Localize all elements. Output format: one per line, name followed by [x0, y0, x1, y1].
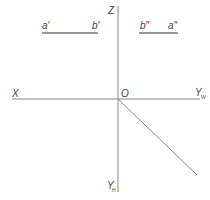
label-b-double-prime: b″ — [140, 20, 150, 31]
label-x-axis: X — [11, 88, 19, 99]
label-a-double-prime: a″ — [168, 20, 178, 31]
label-yh-sub: H — [112, 187, 116, 193]
label-z-axis: Z — [107, 5, 115, 16]
label-b-prime: b′ — [92, 20, 101, 31]
label-a-prime: a′ — [42, 20, 51, 31]
projection-diagram: a′ b′ b″ a″ X Z O Y W Y H — [0, 0, 210, 200]
label-origin: O — [121, 88, 129, 99]
diagonal-line — [118, 99, 197, 175]
label-yw-sub: W — [201, 94, 206, 100]
